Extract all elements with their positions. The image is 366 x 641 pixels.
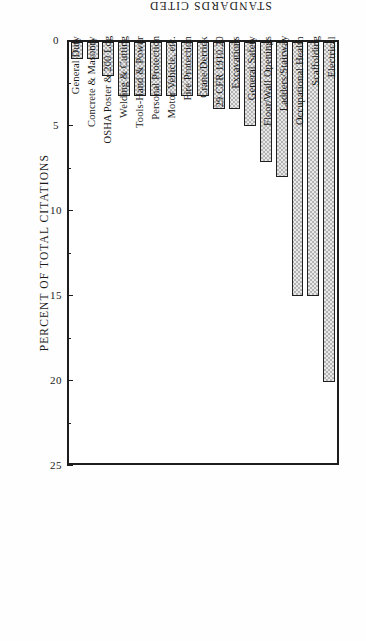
category-label: Concrete & Masonry <box>86 36 97 126</box>
axis-tick-major <box>67 465 73 466</box>
axis-tick-label: 10 <box>50 204 62 216</box>
category-label: General Safety <box>246 36 257 100</box>
category-label: Excavations <box>230 36 241 88</box>
bar-row <box>242 42 258 463</box>
category-label: Occupational Health <box>294 36 305 125</box>
category-label: Scaffolding <box>310 36 321 86</box>
bar-row <box>69 42 85 463</box>
category-axis-title: STANDARDS CITED <box>74 0 346 12</box>
value-axis-title-text: PERCENT OF TOTAL CITATIONS <box>38 154 50 351</box>
category-label: Tools-Hand & Power <box>134 36 145 127</box>
category-label: Ladders/Stairway <box>278 36 289 112</box>
category-label: Motor Vehicle, etc. <box>166 36 177 118</box>
value-axis-title: PERCENT OF TOTAL CITATIONS <box>38 40 50 465</box>
axis-tick-label: 0 <box>53 34 59 46</box>
axis-tick-label: 5 <box>53 119 59 131</box>
axis-tick-label: 20 <box>50 374 62 386</box>
category-label: OSHA Poster & 200 Log <box>102 36 113 144</box>
category-label: Floor/Wall Openings <box>262 36 273 126</box>
bar-row <box>227 42 243 463</box>
rotated-chart-stage: 0510152025 PERCENT OF TOTAL CITATIONS El… <box>0 0 366 641</box>
category-label: Crane/Derrick <box>198 36 209 97</box>
bar-row <box>321 42 337 463</box>
bar-row <box>179 42 195 463</box>
bar-row <box>195 42 211 463</box>
axis-tick-label: 25 <box>50 459 62 471</box>
bar-row <box>305 42 321 463</box>
axis-tick-label: 15 <box>50 289 62 301</box>
bar <box>323 42 335 382</box>
category-label: Fire Protection <box>182 36 193 100</box>
category-label: 29 CFR 1910.20 <box>214 36 225 107</box>
category-label: Personal Protection <box>150 36 161 120</box>
category-label: General Duty <box>70 36 81 94</box>
category-label: Electrical <box>326 36 337 77</box>
category-axis-title-text: STANDARDS CITED <box>149 0 272 12</box>
category-label: Welding & Cutting <box>118 36 129 118</box>
